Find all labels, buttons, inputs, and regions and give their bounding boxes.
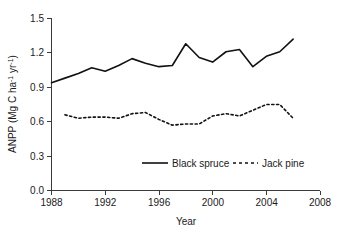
y-tick-label-5: 1.5 [30, 13, 44, 24]
y-tick-label-1: 0.3 [30, 151, 44, 162]
x-tick-label-3: 2000 [202, 197, 225, 208]
x-tick-label-1: 1992 [94, 197, 117, 208]
anpp-line-chart: 0.0 0.3 0.6 0.9 1.2 1.5 1988 1992 1996 2… [0, 0, 346, 236]
x-tick-label-4: 2004 [256, 197, 279, 208]
y-tick-label-0: 0.0 [30, 185, 44, 196]
y-tick-label-2: 0.6 [30, 116, 44, 127]
y-axis-title-mid: yr [7, 64, 18, 76]
series-line-jack-pine [65, 105, 293, 126]
x-axis-title: Year [176, 216, 197, 227]
y-axis-title: ANPP (Mg C ha-1 yr-1) [7, 55, 19, 153]
x-tick-label-2: 1996 [148, 197, 171, 208]
legend-label-black-spruce: Black spruce [172, 158, 230, 169]
legend: Black spruce Jack pine [142, 158, 305, 169]
y-axis-title-suffix: ) [7, 55, 18, 58]
x-tick-label-5: 2008 [309, 197, 332, 208]
y-tick-label-3: 0.9 [30, 82, 44, 93]
series-line-black-spruce [52, 39, 294, 83]
chart-figure: 0.0 0.3 0.6 0.9 1.2 1.5 1988 1992 1996 2… [0, 0, 346, 236]
y-tick-label-4: 1.2 [30, 47, 44, 58]
y-axis-title-prefix: ANPP (Mg C ha [7, 82, 18, 153]
legend-label-jack-pine: Jack pine [262, 158, 305, 169]
x-tick-label-0: 1988 [40, 197, 63, 208]
